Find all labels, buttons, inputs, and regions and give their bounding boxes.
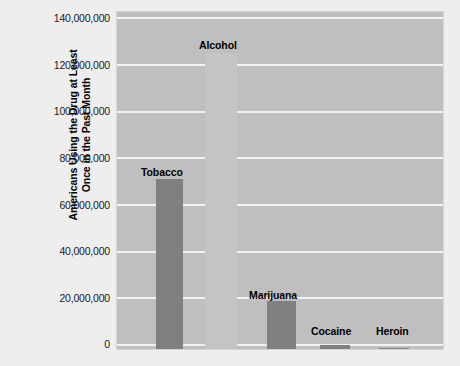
bar-cocaine	[320, 345, 350, 349]
bar-tobacco	[156, 179, 183, 349]
y-tick-label: 120,000,000	[0, 59, 113, 71]
y-tick-label: 80,000,000	[0, 152, 113, 164]
bar-label-cocaine: Cocaine	[311, 325, 351, 337]
bar-label-alcohol: Alcohol	[199, 39, 237, 51]
y-tick-label: 140,000,000	[0, 12, 113, 24]
bar-label-heroin: Heroin	[376, 325, 409, 337]
y-tick-label: 60,000,000	[0, 199, 113, 211]
bar-label-tobacco: Tobacco	[141, 166, 183, 178]
bar-marijuana	[267, 301, 296, 349]
y-axis-tick-labels: 140,000,000 120,000,000 100,000,000 80,0…	[0, 0, 113, 366]
plot-area: Tobacco Alcohol Marijuana Cocaine Heroin	[117, 12, 443, 349]
y-tick-label: 0	[0, 338, 113, 350]
y-tick-label: 20,000,000	[0, 292, 113, 304]
gridline	[117, 17, 443, 19]
gridline	[117, 111, 443, 113]
gridline	[117, 157, 443, 159]
bar-chart-figure: Americans Using the Drug at Least Once i…	[0, 0, 460, 366]
bar-label-marijuana: Marijuana	[249, 289, 297, 301]
bar-alcohol	[205, 53, 237, 349]
bar-heroin	[379, 348, 409, 349]
y-tick-label: 40,000,000	[0, 245, 113, 257]
gridline	[117, 64, 443, 66]
y-tick-label: 100,000,000	[0, 105, 113, 117]
